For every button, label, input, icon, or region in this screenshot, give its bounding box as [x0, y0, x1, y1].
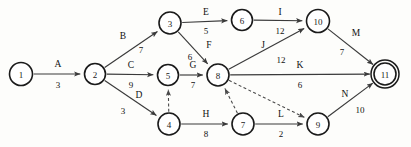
network-diagram-canvas: 1234567891011 A3B7C9D3E5F6G7H8I12J12K6L2… — [0, 0, 411, 147]
node-label-9: 9 — [316, 120, 321, 130]
edge-label-L: L — [278, 109, 284, 119]
node-3[interactable]: 3 — [159, 12, 181, 34]
edge-label-G: G — [190, 60, 197, 70]
edge-label-D: D — [136, 90, 143, 100]
network-diagram-svg: 1234567891011 A3B7C9D3E5F6G7H8I12J12K6L2… — [0, 0, 411, 147]
edge-7-to-8 — [225, 89, 238, 114]
edge-label-I: I — [278, 7, 281, 17]
node-label-11: 11 — [381, 70, 390, 80]
node-5[interactable]: 5 — [158, 65, 179, 86]
edge-2-to-5 — [107, 74, 154, 75]
edge-label-K: K — [297, 60, 304, 70]
node-8[interactable]: 8 — [207, 64, 229, 86]
edge-label-B: B — [120, 31, 126, 41]
edge-8-to-10 — [229, 28, 304, 69]
node-label-10: 10 — [314, 17, 324, 27]
node-label-7: 7 — [241, 120, 246, 130]
edge-duration-L: 2 — [279, 129, 284, 139]
node-label-6: 6 — [240, 16, 245, 26]
edge-label-F: F — [206, 40, 211, 50]
node-9[interactable]: 9 — [307, 113, 329, 135]
edge-duration-M: 7 — [340, 47, 345, 57]
edge-label-E: E — [203, 7, 209, 17]
node-1[interactable]: 1 — [10, 63, 33, 86]
edge-label-A: A — [55, 59, 62, 69]
node-7[interactable]: 7 — [232, 113, 254, 135]
edge-label-J: J — [261, 40, 265, 50]
edge-duration-I: 12 — [276, 26, 285, 36]
edge-8-to-11 — [230, 74, 370, 75]
edge-duration-B: 7 — [139, 45, 144, 55]
edge-duration-A: 3 — [56, 80, 61, 90]
node-label-2: 2 — [93, 70, 98, 80]
edge-8-to-9 — [229, 80, 304, 117]
node-label-8: 8 — [216, 71, 221, 81]
edge-duration-D: 3 — [121, 106, 126, 116]
edge-10-to-11 — [328, 29, 373, 65]
node-4[interactable]: 4 — [158, 113, 180, 135]
node-6[interactable]: 6 — [232, 10, 253, 31]
edge-label-C: C — [128, 60, 134, 70]
edge-3-to-6 — [182, 21, 227, 23]
edge-duration-G: 7 — [191, 80, 196, 90]
edge-duration-K: 6 — [298, 80, 303, 90]
edge-label-N: N — [342, 89, 349, 99]
node-label-4: 4 — [167, 120, 172, 130]
edge-duration-E: 5 — [204, 26, 209, 36]
edge-duration-N: 10 — [356, 105, 366, 115]
node-11[interactable]: 11 — [371, 60, 399, 88]
edge-duration-J: 12 — [277, 55, 286, 65]
node-label-1: 1 — [19, 70, 24, 80]
edge-6-to-10 — [254, 20, 303, 21]
node-label-5: 5 — [166, 71, 171, 81]
node-2[interactable]: 2 — [85, 64, 106, 85]
edge-9-to-11 — [328, 83, 373, 117]
edge-label-H: H — [203, 109, 210, 119]
edge-label-M: M — [352, 28, 361, 38]
node-label-3: 3 — [168, 19, 173, 29]
edge-duration-H: 8 — [204, 129, 209, 139]
edge-duration-C: 9 — [129, 80, 134, 90]
node-10[interactable]: 10 — [307, 10, 330, 33]
